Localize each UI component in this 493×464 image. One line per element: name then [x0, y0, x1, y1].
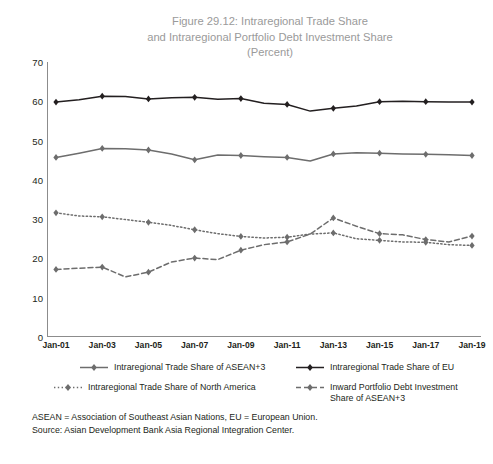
series-marker [146, 96, 151, 103]
footnote-definitions: ASEAN = Association of Southeast Asian N… [32, 411, 472, 424]
y-tick-label-20: 20 [19, 253, 43, 264]
series-marker [469, 152, 474, 159]
x-tick-label-jan-01: Jan-01 [42, 340, 69, 350]
series-marker [146, 219, 151, 226]
series-marker [469, 242, 474, 249]
series-marker [100, 145, 105, 152]
series-marker [100, 93, 105, 100]
legend-label: Inward Portfolio Debt Investment Share o… [330, 382, 460, 404]
x-tick-label-jan-07: Jan-07 [181, 340, 208, 350]
series-marker [53, 99, 58, 106]
legend-label: Intraregional Trade Share of North Ameri… [88, 382, 256, 393]
series-2 [53, 209, 474, 248]
y-tick-label-0: 0 [19, 332, 43, 343]
series-marker [284, 101, 289, 108]
series-marker [469, 99, 474, 106]
chart-lines [47, 62, 481, 337]
series-marker [192, 255, 197, 262]
series-marker [146, 147, 151, 154]
x-tick-label-jan-03: Jan-03 [89, 340, 116, 350]
series-marker [100, 213, 105, 220]
footnote-source: Source: Asian Development Bank Asia Regi… [32, 424, 472, 437]
series-marker [192, 94, 197, 101]
series-0 [53, 145, 474, 163]
plot-area [47, 62, 481, 337]
series-marker [238, 233, 243, 240]
y-tick-label-40: 40 [19, 174, 43, 185]
series-line [56, 148, 472, 161]
series-marker [331, 105, 336, 112]
y-tick-label-10: 10 [19, 292, 43, 303]
figure-title: Figure 29.12: Intraregional Trade Share … [60, 14, 480, 61]
figure-container: Figure 29.12: Intraregional Trade Share … [0, 0, 493, 464]
series-line [56, 218, 472, 277]
legend-swatch-icon [295, 382, 325, 393]
x-tick-label-jan-19: Jan-19 [458, 340, 485, 350]
series-marker [331, 229, 336, 236]
series-marker [284, 239, 289, 246]
series-line [56, 213, 472, 246]
legend-entry-2: Intraregional Trade Share of North Ameri… [53, 382, 256, 393]
title-line-3: (Percent) [60, 45, 480, 61]
series-marker [469, 233, 474, 240]
x-tick-label-jan-09: Jan-09 [227, 340, 254, 350]
series-line [56, 96, 472, 111]
series-1 [53, 93, 474, 112]
series-marker [377, 98, 382, 105]
legend-label: Intraregional Trade Share of EU [330, 362, 454, 373]
series-marker [53, 154, 58, 161]
series-marker [238, 247, 243, 254]
figure-footnotes: ASEAN = Association of Southeast Asian N… [32, 411, 472, 436]
series-marker [146, 269, 151, 276]
y-tick-label-30: 30 [19, 214, 43, 225]
series-marker [377, 150, 382, 157]
legend-swatch-icon [295, 362, 325, 373]
series-marker [423, 98, 428, 105]
series-marker [53, 266, 58, 273]
y-tick-label-60: 60 [19, 96, 43, 107]
series-marker [331, 215, 336, 222]
y-tick-label-50: 50 [19, 135, 43, 146]
series-3 [53, 215, 474, 277]
series-marker [238, 95, 243, 102]
series-marker [377, 230, 382, 237]
series-marker [284, 154, 289, 161]
title-line-2: and Intraregional Portfolio Debt Investm… [60, 30, 480, 46]
legend-entry-3: Inward Portfolio Debt Investment Share o… [295, 382, 460, 404]
title-line-1: Figure 29.12: Intraregional Trade Share [60, 14, 480, 30]
y-tick-label-70: 70 [19, 57, 43, 68]
chart-legend: Intraregional Trade Share of ASEAN+3Intr… [47, 362, 487, 404]
series-marker [423, 151, 428, 158]
x-tick-label-jan-13: Jan-13 [320, 340, 347, 350]
legend-entry-1: Intraregional Trade Share of EU [295, 362, 454, 373]
series-marker [377, 237, 382, 244]
x-tick-label-jan-11: Jan-11 [274, 340, 301, 350]
y-axis: 010203040506070 [17, 62, 43, 337]
x-axis: Jan-01Jan-03Jan-05Jan-07Jan-09Jan-11Jan-… [47, 340, 481, 356]
series-marker [238, 152, 243, 159]
x-tick-label-jan-17: Jan-17 [412, 340, 439, 350]
legend-label: Intraregional Trade Share of ASEAN+3 [114, 362, 265, 373]
legend-swatch-icon [79, 362, 109, 373]
legend-entry-0: Intraregional Trade Share of ASEAN+3 [79, 362, 265, 373]
x-tick-label-jan-05: Jan-05 [135, 340, 162, 350]
series-marker [100, 264, 105, 271]
series-marker [53, 209, 58, 216]
legend-swatch-icon [53, 382, 83, 393]
series-marker [331, 151, 336, 158]
x-tick-label-jan-15: Jan-15 [366, 340, 393, 350]
series-marker [192, 156, 197, 163]
series-marker [192, 226, 197, 233]
